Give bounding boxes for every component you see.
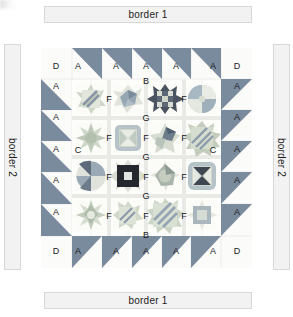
border-1-bottom: border 1 (44, 292, 252, 309)
label-bottom-3: A (143, 246, 149, 256)
label-left-1: A (53, 112, 59, 122)
block-square-in-square-star (187, 200, 217, 230)
block-dark-center-square-star (110, 160, 146, 192)
border-1-top-label: border 1 (129, 9, 168, 20)
label-left-4: A (53, 207, 59, 217)
label-f-8: F (106, 211, 112, 221)
label-f-9: F (143, 211, 149, 221)
label-c-left: C (75, 145, 82, 155)
label-left-2: A (53, 144, 59, 154)
border-1-top: border 1 (44, 6, 252, 23)
label-f-1: F (181, 94, 187, 104)
label-top-1: A (75, 61, 81, 71)
label-top-3: A (143, 61, 149, 71)
label-right-1: A (234, 112, 240, 122)
label-b-bottom: B (143, 230, 149, 240)
label-right-4: A (234, 207, 240, 217)
block-small-diagonal-stripe-star (113, 200, 143, 230)
label-g-1: G (142, 113, 149, 123)
label-f-5: F (106, 172, 112, 182)
label-f-10: F (181, 211, 187, 221)
block-double-star (76, 200, 106, 230)
block-diagonal-stripe-star (76, 84, 106, 114)
label-bottom-6: D (234, 246, 241, 256)
block-broken-star (150, 123, 180, 153)
label-g-3: G (142, 191, 149, 201)
label-c-right: C (210, 145, 217, 155)
block-circular-pinwheel (187, 84, 217, 114)
label-left-0: A (53, 81, 59, 91)
block-large-diagonal-stripe-star (147, 198, 184, 234)
border-2-left-label: border 2 (7, 138, 18, 177)
border-1-bottom-label: border 1 (129, 295, 168, 306)
label-f-6: F (143, 172, 149, 182)
label-bottom-5: A (210, 246, 216, 256)
label-f-0: F (106, 94, 112, 104)
label-f-2: F (106, 133, 112, 143)
label-bottom-4: A (173, 246, 179, 256)
label-top-0: D (53, 61, 60, 71)
label-f-4: F (181, 133, 187, 143)
border-2-right-label: border 2 (276, 138, 287, 177)
label-top-5: A (210, 61, 216, 71)
block-dark-sawtooth-star (147, 84, 184, 114)
label-left-3: A (53, 175, 59, 185)
block-pinwheel-star (113, 84, 143, 114)
label-top-6: D (234, 61, 241, 71)
label-g-2: G (142, 152, 149, 162)
label-f-3: F (143, 133, 149, 143)
block-hourglass-square-star (187, 161, 217, 191)
label-top-4: A (173, 61, 179, 71)
label-bottom-1: A (75, 246, 81, 256)
label-top-2: A (113, 61, 119, 71)
border-2-right: border 2 (273, 44, 290, 270)
label-right-2: A (234, 144, 240, 154)
label-bottom-2: A (113, 246, 119, 256)
block-framed-square-star (113, 123, 143, 153)
label-bottom-0: D (53, 246, 60, 256)
label-b-top: B (143, 76, 149, 86)
block-curved-four-point-star (150, 161, 180, 191)
label-f-7: F (181, 172, 187, 182)
quilt-diagram: D A A A A A D D A A A A A D A A A A A A … (41, 48, 252, 268)
label-right-3: A (234, 175, 240, 185)
label-right-0: A (234, 81, 240, 91)
page-corner-artifact (0, 0, 16, 9)
border-2-left: border 2 (4, 44, 21, 270)
block-quarter-circle-pinwheel (76, 161, 106, 191)
